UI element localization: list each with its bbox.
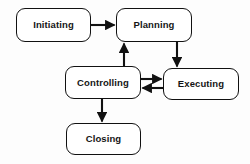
node-executing[interactable]: Executing xyxy=(163,68,239,100)
process-flow-diagram: Initiating Planning Controlling Executin… xyxy=(0,0,250,164)
node-closing[interactable]: Closing xyxy=(66,123,141,155)
node-initiating[interactable]: Initiating xyxy=(16,8,91,42)
node-planning-label: Planning xyxy=(134,20,175,30)
node-closing-label: Closing xyxy=(86,134,122,144)
node-controlling[interactable]: Controlling xyxy=(65,66,141,99)
node-planning[interactable]: Planning xyxy=(116,8,192,42)
node-initiating-label: Initiating xyxy=(33,20,74,30)
node-controlling-label: Controlling xyxy=(77,78,129,88)
node-executing-label: Executing xyxy=(178,79,224,89)
